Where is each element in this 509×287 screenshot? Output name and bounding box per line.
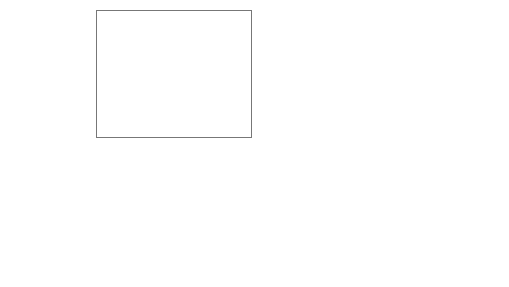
small-states-chart <box>96 10 250 135</box>
